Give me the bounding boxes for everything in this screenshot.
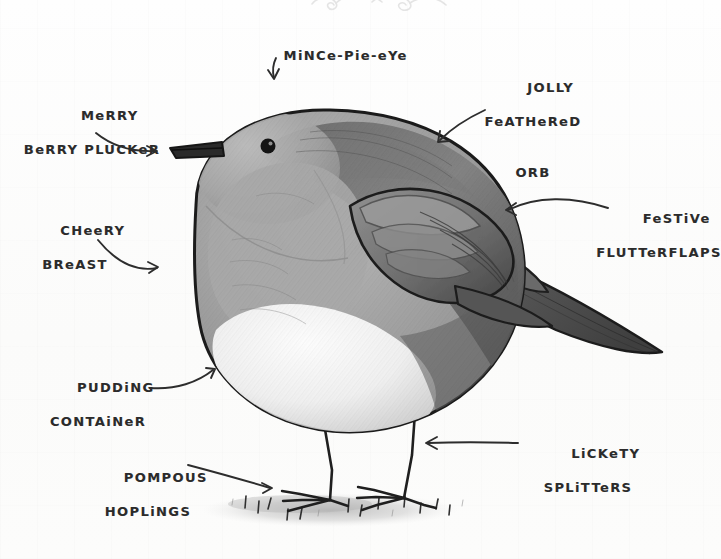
arrow-mince-pie-eye: [268, 58, 279, 79]
annotation-arrows: [0, 0, 721, 559]
arrow-cheery-breast: [98, 240, 158, 273]
arrow-pompous-hoplings: [188, 465, 272, 493]
arrow-pudding-container: [150, 368, 215, 388]
illustration-page: MiNCe-Pie-eYe MeRRY BeRRY PLUCKeR CHeeRY…: [0, 0, 721, 559]
arrow-merry-berry-plucker: [96, 133, 157, 156]
arrow-jolly-feathered-orb: [438, 110, 485, 142]
arrow-festive-flutterflaps: [506, 199, 608, 215]
arrow-lickety-splitters: [426, 437, 518, 449]
